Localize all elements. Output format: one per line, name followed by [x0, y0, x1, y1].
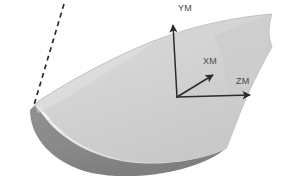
axis-origin-point — [176, 96, 178, 98]
technical-illustration: YM XM ZM — [0, 0, 284, 176]
axis-label-ym: YM — [178, 3, 192, 13]
axis-label-xm: XM — [203, 56, 217, 66]
axis-label-zm: ZM — [236, 76, 249, 86]
figure-container: YM XM ZM — [0, 0, 284, 176]
